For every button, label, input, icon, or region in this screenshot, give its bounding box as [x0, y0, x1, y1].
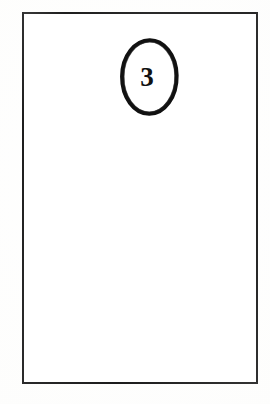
page-border-right-edge — [256, 12, 258, 384]
figure-marker: 3 — [119, 38, 180, 116]
page-border-top-edge — [22, 12, 258, 14]
page-border-bottom-edge — [22, 382, 258, 384]
scanned-page: 3 — [0, 0, 270, 404]
page-border-left-edge — [22, 12, 24, 384]
figure-marker-label: 3 — [119, 38, 180, 116]
